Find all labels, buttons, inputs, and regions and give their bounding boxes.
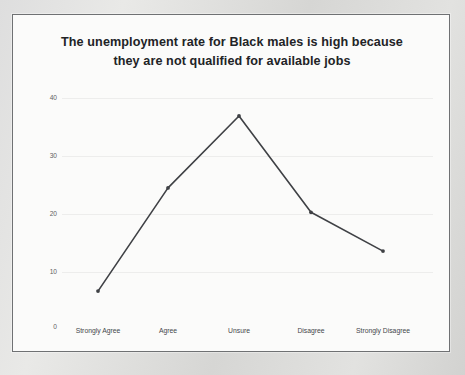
chart-figure-panel: The unemployment rate for Black males is… — [12, 14, 450, 352]
series-line-chart — [13, 15, 451, 353]
data-point-1 — [96, 289, 100, 293]
data-point-4 — [309, 210, 313, 214]
plot-area: 40 30 20 10 0 Strongly Agree Agree Unsur… — [13, 15, 449, 351]
data-point-3 — [237, 114, 241, 118]
data-point-2 — [166, 186, 170, 190]
series-marker-group — [96, 114, 385, 293]
data-point-5 — [381, 249, 385, 253]
series-line-path — [98, 116, 383, 291]
